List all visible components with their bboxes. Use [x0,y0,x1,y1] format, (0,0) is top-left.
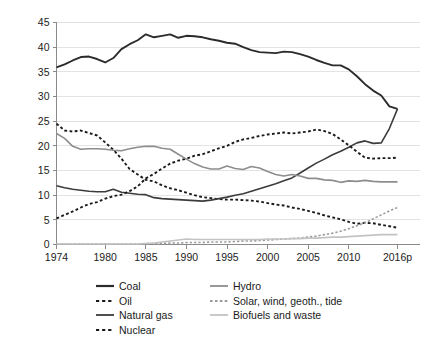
x-tick-label: 1974 [45,251,69,263]
legend-item-label: Natural gas [119,308,173,323]
legend-column-2: HydroSolar, wind, geoth., tideBiofuels a… [210,279,342,323]
series-line-nuclear [57,130,398,219]
y-tick-label: 45 [38,16,50,28]
legend-swatch-icon [210,310,228,320]
y-tick-label: 20 [38,140,50,152]
y-tick-label: 0 [44,238,50,250]
legend-item-label: Nuclear [119,323,155,338]
x-tick-label: 2016p [383,251,412,263]
y-tick-label: 10 [38,189,50,201]
legend-item-label: Coal [119,279,141,294]
legend-item[interactable]: Biofuels and waste [210,308,342,323]
data-series [57,34,398,244]
grid-lines [57,23,421,245]
legend-item[interactable]: Natural gas [96,308,173,323]
legend-swatch-icon [96,325,114,335]
series-line-natural-gas [57,109,398,201]
x-tick-label: 2000 [256,251,280,263]
x-tick-label: 2010 [337,251,361,263]
y-tick-label: 15 [38,164,50,176]
series-line-oil [57,124,398,228]
legend-swatch-icon [96,296,114,306]
legend-swatch-icon [96,310,114,320]
y-tick-label: 40 [38,41,50,53]
y-tick-label: 25 [38,115,50,127]
legend-item[interactable]: Solar, wind, geoth., tide [210,294,342,309]
x-tick-label: 1990 [175,251,199,263]
chart-legend: CoalOilNatural gasNuclear HydroSolar, wi… [96,279,426,345]
x-tick-label: 2005 [297,251,321,263]
legend-swatch-icon [210,296,228,306]
y-axis-ticks: 051015202530354045 [38,16,57,250]
x-tick-label: 1995 [215,251,239,263]
series-line-hydro [57,134,398,183]
line-chart: Percentage share 051015202530354045 1974… [0,0,430,349]
x-axis-ticks: 197419801985199019952000200520102016p [45,245,412,263]
axis-lines [57,22,421,245]
legend-item-label: Oil [119,294,132,309]
legend-item[interactable]: Coal [96,279,173,294]
series-line-biofuels-and-waste [57,235,398,244]
y-tick-label: 35 [38,66,50,78]
x-tick-label: 1980 [94,251,118,263]
legend-swatch-icon [210,281,228,291]
legend-swatch-icon [96,281,114,291]
legend-item[interactable]: Oil [96,294,173,309]
y-tick-label: 30 [38,90,50,102]
legend-item-label: Hydro [233,279,261,294]
series-line-solar-wind-geoth-tide [57,208,398,245]
legend-item[interactable]: Nuclear [96,323,173,338]
legend-item-label: Solar, wind, geoth., tide [233,294,342,309]
legend-column-1: CoalOilNatural gasNuclear [96,279,173,337]
x-tick-label: 1985 [134,251,158,263]
legend-item-label: Biofuels and waste [233,308,321,323]
y-tick-label: 5 [44,214,50,226]
legend-item[interactable]: Hydro [210,279,342,294]
